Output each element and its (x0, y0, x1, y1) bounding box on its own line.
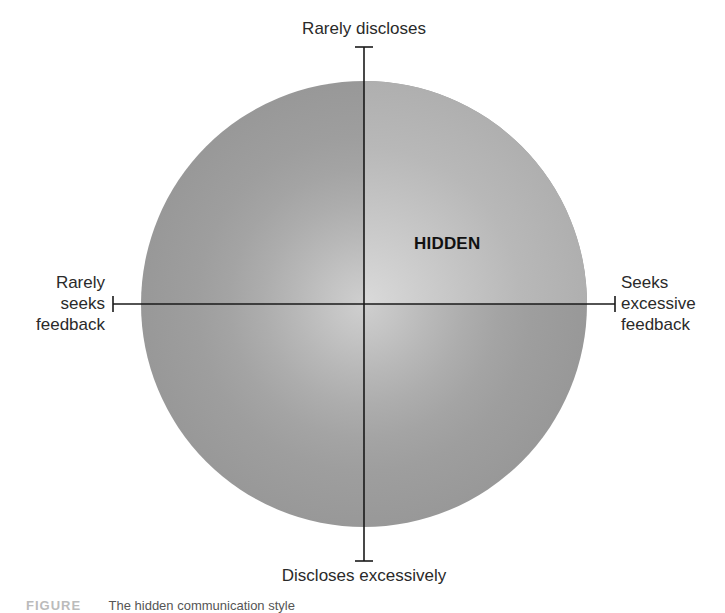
axis-label-right-line-1: Seeks (621, 272, 696, 293)
axis-label-right-line-2: excessive (621, 293, 696, 314)
axis-label-top: Rarely discloses (302, 18, 426, 39)
axis-label-left-line-3: feedback (36, 314, 105, 335)
axis-label-bottom: Discloses excessively (282, 565, 446, 586)
axis-label-left-line-1: Rarely (36, 272, 105, 293)
hidden-quadrant-label: HIDDEN (414, 234, 480, 254)
figure-caption-text: The hidden communication style (109, 598, 295, 613)
axis-label-left-line-2: seeks (36, 293, 105, 314)
axis-label-right-line-3: feedback (621, 314, 696, 335)
axis-label-left: Rarely seeks feedback (36, 272, 105, 335)
axis-label-right: Seeks excessive feedback (621, 272, 696, 335)
figure-caption: FIGURE The hidden communication style (26, 598, 295, 613)
figure-caption-prefix: FIGURE (26, 598, 81, 613)
